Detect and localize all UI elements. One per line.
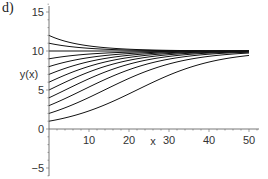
x-tick-label: 40 <box>203 134 215 146</box>
axes: 1020304050−5051015xy(x) <box>20 4 259 176</box>
x-axis-title: x <box>150 135 156 147</box>
y-tick-label: 0 <box>38 123 44 135</box>
line-chart: 1020304050−5051015xy(x) <box>0 0 268 179</box>
curve-y0-6 <box>49 51 249 82</box>
x-tick-label: 20 <box>123 134 135 146</box>
x-tick-label: 30 <box>163 134 175 146</box>
curve-y0-4 <box>49 52 249 98</box>
curve-y0-1 <box>49 55 249 121</box>
y-axis-title: y(x) <box>20 68 38 80</box>
y-tick-label: 10 <box>32 45 44 57</box>
x-tick-label: 10 <box>83 134 95 146</box>
y-tick-label: 5 <box>38 84 44 96</box>
x-tick-label: 50 <box>243 134 255 146</box>
curve-y0-12 <box>49 35 249 51</box>
y-tick-label: −5 <box>31 162 44 174</box>
y-tick-label: 15 <box>32 6 44 18</box>
solution-curves <box>49 35 249 121</box>
